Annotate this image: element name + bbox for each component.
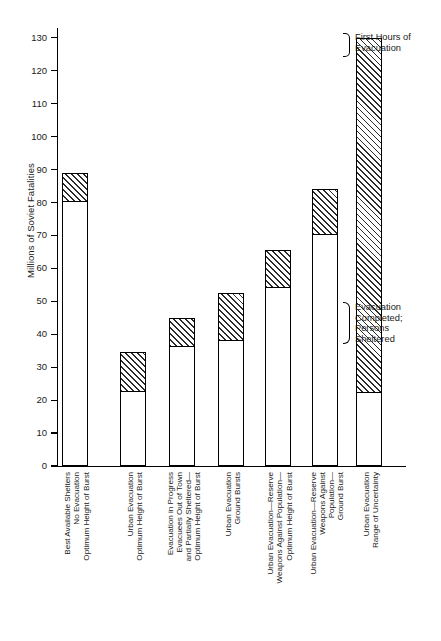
y-tick-label-100: 100 xyxy=(0,132,47,141)
y-tick-label-80: 80 xyxy=(0,198,47,207)
y-tick-label-90: 90 xyxy=(0,165,47,174)
x-axis-line xyxy=(57,466,406,467)
y-tick-label-120: 120 xyxy=(0,66,47,75)
bar-3-segment-sheltered xyxy=(169,346,195,466)
y-tick-label-110: 110 xyxy=(0,99,47,108)
bar-7-segment-sheltered xyxy=(356,392,382,466)
y-tick-120 xyxy=(51,70,57,71)
y-tick-label-40: 40 xyxy=(0,329,47,338)
bar-7 xyxy=(356,38,382,466)
annotation-evacuation-completed: EvacuationCompleted;PersonsSheltered xyxy=(355,302,403,344)
brace-evacuation-completed xyxy=(343,302,350,344)
bar-5-segment-first-hours xyxy=(265,250,291,288)
category-label-5-line-3: Optimum Height of Burst xyxy=(286,472,298,622)
y-tick-label-0: 0 xyxy=(0,461,47,470)
y-axis-title: Millions of Soviet Fatalities xyxy=(25,131,36,311)
category-label-1-line-3: Optimum Height of Burst xyxy=(83,472,95,622)
bar-2 xyxy=(120,352,146,466)
y-tick-label-60: 60 xyxy=(0,263,47,272)
y-tick-label-10: 10 xyxy=(0,428,47,437)
bar-1 xyxy=(62,173,88,466)
y-tick-90 xyxy=(51,169,57,170)
bar-2-segment-first-hours xyxy=(120,352,146,392)
y-tick-0 xyxy=(51,465,57,466)
bar-6 xyxy=(312,189,338,466)
bar-1-segment-sheltered xyxy=(62,201,88,466)
y-tick-80 xyxy=(51,202,57,203)
bar-5-segment-sheltered xyxy=(265,287,291,466)
bar-4 xyxy=(218,293,244,466)
bar-chart: Millions of Soviet Fatalities 0102030405… xyxy=(0,0,441,641)
y-tick-label-30: 30 xyxy=(0,362,47,371)
annotation-line: Evacuation xyxy=(355,302,403,313)
annotation-line: Evacuation xyxy=(355,43,411,54)
category-label-4-line-2: Ground Bursts xyxy=(234,472,246,622)
y-tick-100 xyxy=(51,136,57,137)
bar-6-segment-sheltered xyxy=(312,234,338,466)
y-tick-110 xyxy=(51,103,57,104)
y-tick-label-50: 50 xyxy=(0,296,47,305)
bar-3-segment-first-hours xyxy=(169,318,195,348)
annotation-line: Sheltered xyxy=(355,334,403,345)
y-tick-50 xyxy=(51,301,57,302)
bar-4-segment-first-hours xyxy=(218,293,244,341)
y-tick-130 xyxy=(51,37,57,38)
y-tick-30 xyxy=(51,367,57,368)
y-tick-40 xyxy=(51,334,57,335)
y-tick-60 xyxy=(51,268,57,269)
y-tick-label-20: 20 xyxy=(0,395,47,404)
y-axis-line xyxy=(57,28,58,466)
category-label-7-line-2: Range of Uncertainty xyxy=(372,472,384,622)
bar-6-segment-first-hours xyxy=(312,189,338,235)
y-tick-10 xyxy=(51,432,57,433)
annotation-line: Persons xyxy=(355,323,403,334)
y-tick-label-70: 70 xyxy=(0,230,47,239)
y-tick-20 xyxy=(51,400,57,401)
brace-first-hours xyxy=(343,33,350,57)
bar-3 xyxy=(169,318,195,466)
category-label-3-line-4: Optimum Height of Burst xyxy=(194,472,206,622)
bar-5 xyxy=(265,250,291,466)
category-label-6-line-4: Ground Burst xyxy=(337,472,349,622)
bar-2-segment-sheltered xyxy=(120,391,146,466)
annotation-line: Completed; xyxy=(355,313,403,324)
bar-1-segment-first-hours xyxy=(62,173,88,203)
y-tick-label-130: 130 xyxy=(0,33,47,42)
annotation-line: First Hours of xyxy=(355,32,411,43)
y-tick-70 xyxy=(51,235,57,236)
category-label-2-line-2: Optimum Height of Burst xyxy=(136,472,148,622)
annotation-first-hours: First Hours ofEvacuation xyxy=(355,32,411,53)
bar-4-segment-sheltered xyxy=(218,340,244,466)
